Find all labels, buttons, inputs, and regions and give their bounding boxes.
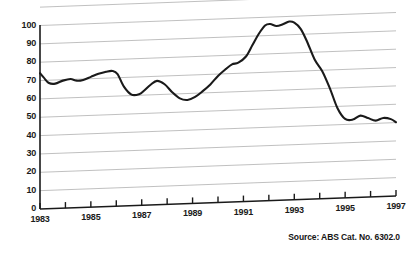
gridline	[40, 159, 396, 172]
gridline	[40, 86, 396, 99]
gridline	[40, 49, 396, 62]
gridline	[40, 31, 396, 44]
x-tick-label: 1993	[280, 206, 308, 215]
y-tick-label: 50	[26, 112, 36, 121]
data-series-line	[40, 21, 396, 122]
y-tick-label: 20	[26, 167, 36, 176]
y-tick-label: 10	[26, 186, 36, 195]
y-tick-label: 100	[22, 21, 36, 30]
y-tick-label: 60	[26, 94, 36, 103]
x-tick-label: 1997	[382, 202, 408, 211]
gridline	[40, 178, 396, 191]
x-tick-label: 1983	[26, 215, 54, 224]
x-tick-label: 1991	[229, 208, 257, 217]
y-tick-label: 90	[26, 39, 36, 48]
y-tick-label: 80	[26, 57, 36, 66]
gridline	[40, 13, 396, 26]
gridline	[40, 0, 396, 7]
y-tick-label: 30	[26, 149, 36, 158]
source-note: Source: ABS Cat. No. 6302.0	[288, 232, 400, 242]
y-tick-label: 40	[26, 131, 36, 140]
gridline	[40, 123, 396, 136]
y-tick-label: 70	[26, 76, 36, 85]
x-tick-label: 1985	[77, 213, 105, 222]
gridline	[40, 68, 396, 81]
chart-plot-area	[0, 0, 408, 261]
gridline-group	[40, 0, 396, 191]
x-tick-label: 1995	[331, 204, 359, 213]
x-tick-label: 1989	[179, 209, 207, 218]
chart-figure: 0102030405060708090100 19831985198719891…	[0, 0, 408, 261]
y-tick-label: 0	[31, 204, 36, 213]
x-tick-label: 1987	[128, 211, 156, 220]
gridline	[40, 141, 396, 154]
